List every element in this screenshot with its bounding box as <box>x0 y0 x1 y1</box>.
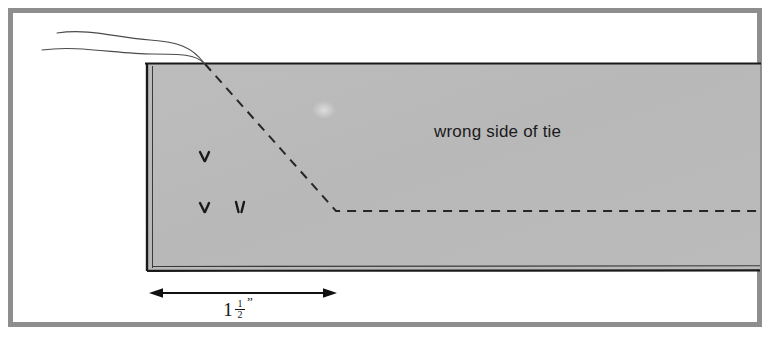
dimension-inch-mark: ” <box>247 294 253 309</box>
fabric-highlight-spot <box>312 101 336 119</box>
dimension-whole-number: 1 <box>223 299 233 320</box>
tie-diagram-svg: wrong side of tie 1 1 2 ” <box>0 0 769 347</box>
fabric-texture <box>146 63 760 271</box>
fabric-side-label: wrong side of tie <box>433 122 561 141</box>
dimension-denominator: 2 <box>238 309 243 320</box>
fabric-bottom-edge-outer <box>147 270 760 271</box>
figure-root: wrong side of tie 1 1 2 ” <box>0 0 769 347</box>
dimension-numerator: 1 <box>238 298 243 309</box>
tie-fabric-panel-group <box>146 63 760 271</box>
fabric-bottom-edge-inner <box>152 266 760 267</box>
